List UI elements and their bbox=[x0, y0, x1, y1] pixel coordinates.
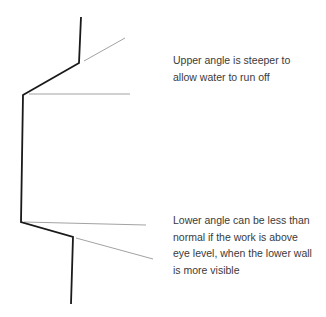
lower-note-line: Lower angle can be less than bbox=[173, 212, 323, 229]
upper-angle-guide bbox=[84, 38, 125, 61]
lower-note-line: is more visible bbox=[173, 262, 323, 279]
lower-angle-guide bbox=[76, 238, 153, 259]
guide-lines bbox=[24, 38, 153, 259]
lower-horizontal-guide bbox=[24, 222, 146, 225]
wall-profile-line bbox=[21, 17, 81, 304]
upper-note-line: allow water to run off bbox=[173, 69, 323, 86]
lower-note-line: normal if the work is above bbox=[173, 229, 323, 246]
upper-angle-note: Upper angle is steeper to allow water to… bbox=[173, 52, 323, 85]
lower-note-line: eye level, when the lower wall bbox=[173, 245, 323, 262]
lower-angle-note: Lower angle can be less than normal if t… bbox=[173, 212, 323, 278]
upper-note-line: Upper angle is steeper to bbox=[173, 52, 323, 69]
